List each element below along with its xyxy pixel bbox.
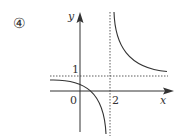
- vertical-asymptote-label: 2: [112, 94, 119, 107]
- horizontal-asymptote-label: 1: [72, 63, 79, 76]
- graph-canvas: ④ y x 0 2 1: [0, 0, 178, 139]
- curve-lower-left-branch: [50, 80, 106, 134]
- option-label: ④: [13, 15, 26, 31]
- x-axis-label: x: [160, 94, 167, 107]
- curve-upper-right-branch: [114, 12, 167, 72]
- hyperbola-graph-figure: ④ y x 0 2 1: [0, 0, 178, 139]
- origin-label: 0: [70, 94, 77, 107]
- y-axis-label: y: [67, 10, 75, 23]
